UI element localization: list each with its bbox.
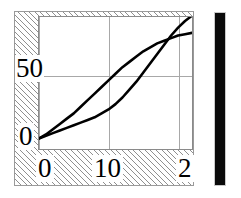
plot-figure: 50 0 0 10 2 xyxy=(0,0,241,198)
series-lower-curve xyxy=(39,17,192,138)
x-tick-label-0: 0 xyxy=(36,155,54,182)
x-tick-label-20: 2 xyxy=(176,155,197,182)
y-tick-label-0: 0 xyxy=(18,123,34,150)
data-curves xyxy=(39,17,192,149)
y-tick-label-50: 50 xyxy=(15,55,44,82)
series-upper-curve xyxy=(39,33,192,139)
colorbar xyxy=(214,12,226,186)
plot-area xyxy=(38,16,193,150)
x-tick-label-10: 10 xyxy=(92,155,123,182)
